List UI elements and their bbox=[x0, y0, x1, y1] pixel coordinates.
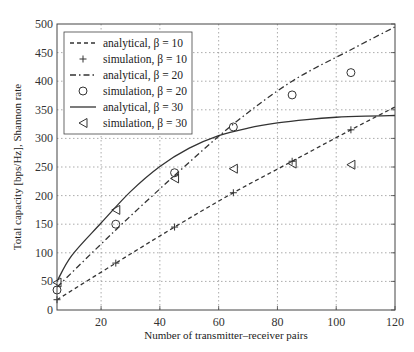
y-tick-label: 100 bbox=[35, 246, 53, 260]
data-point bbox=[288, 91, 296, 99]
x-tick-label: 100 bbox=[327, 315, 345, 329]
data-point bbox=[230, 189, 237, 196]
data-point bbox=[229, 164, 237, 173]
legend-label: simulation, β = 10 bbox=[103, 53, 187, 66]
y-axis-label: Total capacity [bps/Hz], Shannon rate bbox=[11, 84, 23, 250]
y-tick-label: 500 bbox=[35, 17, 53, 31]
series-line bbox=[57, 116, 395, 282]
data-point bbox=[347, 69, 355, 77]
y-tick-label: 400 bbox=[35, 74, 53, 88]
y-tick-label: 250 bbox=[35, 160, 53, 174]
y-tick-label: 0 bbox=[47, 303, 53, 317]
legend-label: simulation, β = 30 bbox=[103, 117, 187, 130]
y-tick-label: 450 bbox=[35, 46, 53, 60]
x-tick-label: 60 bbox=[213, 315, 225, 329]
legend-label: simulation, β = 20 bbox=[103, 85, 187, 98]
y-tick-label: 350 bbox=[35, 103, 53, 117]
data-point bbox=[171, 224, 178, 231]
chart: 2040608010012005010015020025030035040045… bbox=[0, 0, 414, 352]
data-point bbox=[347, 160, 355, 169]
series-5 bbox=[53, 159, 355, 287]
data-point bbox=[229, 123, 237, 131]
x-tick-label: 120 bbox=[386, 315, 404, 329]
data-point bbox=[112, 260, 119, 267]
y-tick-label: 150 bbox=[35, 217, 53, 231]
series-line bbox=[57, 107, 395, 300]
x-tick-label: 40 bbox=[154, 315, 166, 329]
x-tick-label: 20 bbox=[95, 315, 107, 329]
data-point bbox=[112, 220, 120, 228]
series-1 bbox=[54, 126, 355, 303]
legend-label: analytical, β = 20 bbox=[103, 69, 183, 82]
x-axis-label: Number of transmitter–receiver pairs bbox=[144, 329, 307, 341]
legend-label: analytical, β = 10 bbox=[103, 37, 183, 50]
series-0 bbox=[57, 107, 395, 300]
x-tick-label: 80 bbox=[271, 315, 283, 329]
series-4 bbox=[57, 116, 395, 282]
legend: analytical, β = 10simulation, β = 10anal… bbox=[64, 32, 192, 134]
y-tick-label: 50 bbox=[41, 274, 53, 288]
y-tick-label: 300 bbox=[35, 131, 53, 145]
y-tick-label: 200 bbox=[35, 189, 53, 203]
data-point bbox=[347, 126, 354, 133]
legend-label: analytical, β = 30 bbox=[103, 101, 183, 114]
